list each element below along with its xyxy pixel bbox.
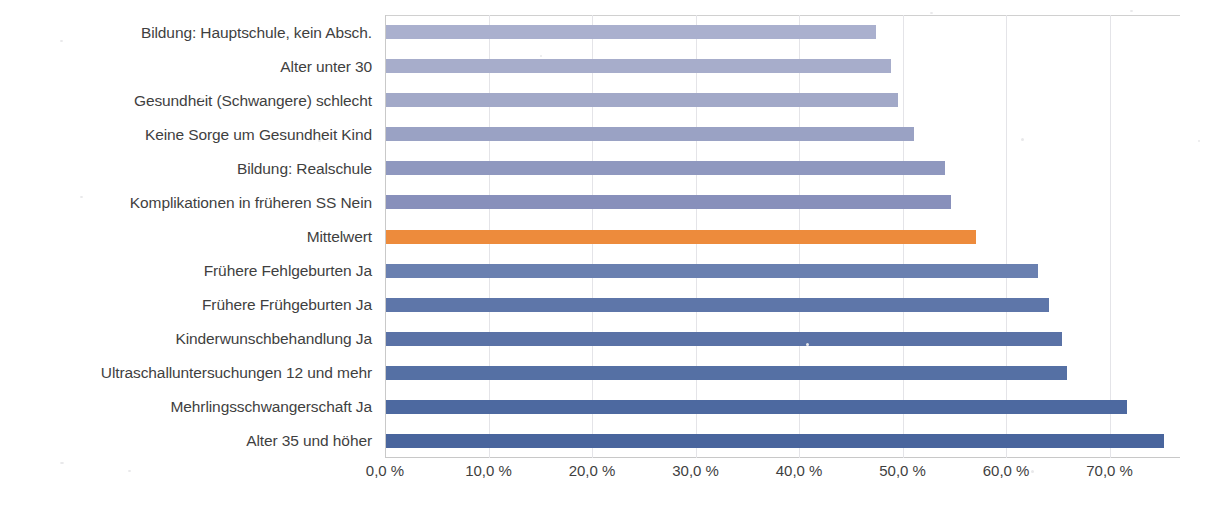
value-tick-label: 50,0 % <box>879 462 926 479</box>
value-tick-label: 20,0 % <box>569 462 616 479</box>
bar <box>386 127 914 141</box>
category-label: Komplikationen in früheren SS Nein <box>0 194 372 211</box>
bar-chart: Bildung: Hauptschule, kein Absch.Alter u… <box>0 0 1230 517</box>
category-label: Kinderwunschbehandlung Ja <box>0 330 372 347</box>
scan-artifact <box>540 55 542 57</box>
value-axis-labels: 0,0 %10,0 %20,0 %30,0 %40,0 %50,0 %60,0 … <box>385 462 1185 490</box>
gridline-700 <box>1110 15 1111 458</box>
bar <box>386 400 1127 414</box>
scan-artifact <box>930 12 933 14</box>
category-label: Mittelwert <box>0 228 372 245</box>
bar <box>386 264 1038 278</box>
bar <box>386 298 1049 312</box>
scan-artifact <box>1021 138 1024 141</box>
category-label: Alter 35 und höher <box>0 432 372 449</box>
category-label: Frühere Fehlgeburten Ja <box>0 262 372 279</box>
value-tick-label: 0,0 % <box>366 462 404 479</box>
gridline-600 <box>1006 15 1007 458</box>
bar <box>386 161 945 175</box>
scan-artifact <box>128 470 131 472</box>
category-label: Bildung: Hauptschule, kein Absch. <box>0 24 372 41</box>
bar <box>386 59 891 73</box>
bar <box>386 366 1067 380</box>
category-label: Mehrlingsschwangerschaft Ja <box>0 398 372 415</box>
scan-artifact <box>60 462 64 464</box>
bar <box>386 332 1062 346</box>
plot-top-border <box>385 15 1180 16</box>
category-label: Bildung: Realschule <box>0 160 372 177</box>
scan-artifact <box>1130 10 1133 12</box>
bar <box>386 195 951 209</box>
category-label: Keine Sorge um Gesundheit Kind <box>0 126 372 143</box>
scan-artifact <box>60 40 63 42</box>
scan-artifact <box>200 98 204 100</box>
value-tick-label: 60,0 % <box>983 462 1030 479</box>
bar <box>386 230 976 244</box>
category-label: Ultraschalluntersuchungen 12 und mehr <box>0 364 372 381</box>
bar <box>386 25 876 39</box>
plot-area <box>385 15 1180 458</box>
category-label: Gesundheit (Schwangere) schlecht <box>0 92 372 109</box>
value-tick-label: 30,0 % <box>672 462 719 479</box>
chart-title-cropped <box>130 0 610 5</box>
scan-artifact <box>80 196 83 198</box>
category-label: Alter unter 30 <box>0 58 372 75</box>
scan-artifact <box>1031 470 1034 473</box>
category-axis-labels: Bildung: Hauptschule, kein Absch.Alter u… <box>0 15 372 458</box>
scan-artifact <box>318 140 321 142</box>
value-tick-label: 10,0 % <box>465 462 512 479</box>
plot-bottom-border <box>385 457 1180 458</box>
scan-artifact <box>1198 140 1200 142</box>
category-label: Frühere Frühgeburten Ja <box>0 296 372 313</box>
bar <box>386 93 898 107</box>
value-tick-label: 40,0 % <box>776 462 823 479</box>
scan-artifact <box>806 343 809 346</box>
value-tick-label: 70,0 % <box>1086 462 1133 479</box>
bar <box>386 434 1164 448</box>
